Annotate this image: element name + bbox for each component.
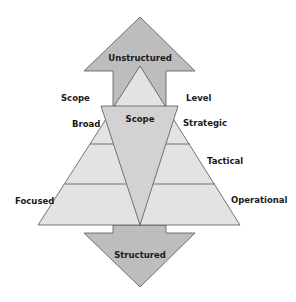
level-tactical-label: Tactical [207, 156, 243, 166]
level-operational-label: Operational [231, 195, 288, 205]
unstructured-label: Unstructured [108, 53, 172, 63]
left-axis-broad-label: Broad [72, 119, 100, 129]
center-scope-label: Scope [126, 114, 155, 124]
structured-label: Structured [114, 250, 166, 260]
left-axis-focused-label: Focused [15, 196, 54, 206]
right-axis-title: Level [186, 93, 211, 103]
decision-structure-diagram: Unstructured Scope Structured Scope Broa… [0, 0, 296, 302]
left-axis-title: Scope [61, 93, 90, 103]
level-strategic-label: Strategic [183, 118, 227, 128]
